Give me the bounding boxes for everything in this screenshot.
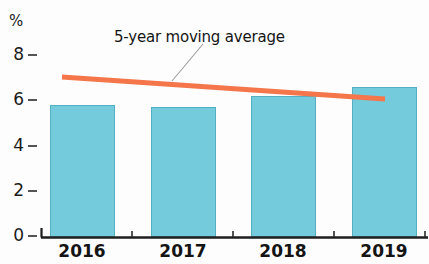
x-tick-label-2018: 2018 — [248, 241, 318, 261]
bar-2018 — [252, 97, 316, 238]
x-tick-label-2016: 2016 — [47, 241, 117, 261]
bar-2019 — [353, 88, 417, 238]
bar-series — [51, 88, 417, 238]
chart-container: % 8 6 4 2 0 2016 2017 2018 2019 5-year m… — [0, 0, 429, 264]
y-tick-label-2: 2 — [2, 180, 24, 200]
y-tick-label-6: 6 — [2, 89, 24, 109]
moving-average-line — [62, 77, 385, 99]
y-axis-ticks — [28, 55, 37, 236]
y-tick-label-8: 8 — [2, 44, 24, 64]
x-tick-label-2017: 2017 — [148, 241, 218, 261]
moving-average-annotation: 5-year moving average — [114, 28, 285, 46]
y-axis-unit-label: % — [9, 12, 23, 30]
y-tick-label-0: 0 — [2, 225, 24, 245]
bar-2016 — [51, 106, 115, 238]
y-tick-label-4: 4 — [2, 135, 24, 155]
x-tick-label-2019: 2019 — [349, 241, 419, 261]
bar-2017 — [152, 108, 216, 238]
annotation-leader-line — [172, 44, 203, 81]
